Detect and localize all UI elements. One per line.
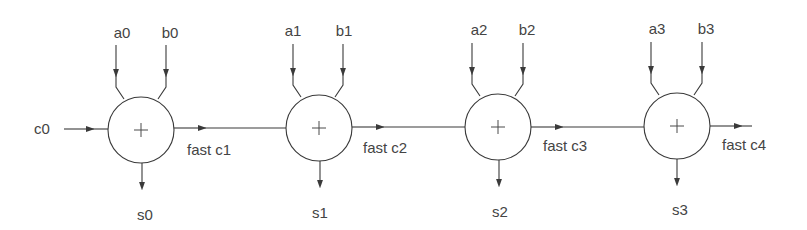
input-a-wire <box>116 70 124 99</box>
adder-node-2: a2 b2 s2 fast c3 <box>465 21 587 220</box>
input-b-label: b0 <box>162 24 179 41</box>
adder-node-3: a3 b3 s3 fast c4 <box>644 20 766 218</box>
sum-label: s0 <box>137 206 153 223</box>
input-a-label: a1 <box>285 22 302 39</box>
carry-out-label: fast c1 <box>187 141 231 158</box>
input-a-wire <box>472 68 480 96</box>
input-a-label: a3 <box>649 20 666 37</box>
input-b-label: b2 <box>519 21 536 38</box>
input-b-wire <box>515 68 523 96</box>
sum-label: s3 <box>672 201 688 218</box>
input-a-wire <box>651 67 659 95</box>
input-b-label: b3 <box>698 20 715 37</box>
carry-chain-diagram: c0 a0 b0 s0 fast c1 a1 b1 s1 fast c2 a2 <box>0 0 807 230</box>
sum-label: s1 <box>312 204 328 221</box>
input-b-wire <box>335 69 343 97</box>
input-a-label: a0 <box>114 24 131 41</box>
carry-out-label: fast c2 <box>363 139 407 156</box>
carry-out-label: fast c3 <box>543 137 587 154</box>
input-a-label: a2 <box>471 21 488 38</box>
input-b-label: b1 <box>336 22 353 39</box>
input-a-wire <box>293 69 301 97</box>
carry-in-label: c0 <box>34 120 50 137</box>
sum-label: s2 <box>492 203 508 220</box>
adder-node-0: a0 b0 s0 fast c1 <box>108 24 231 223</box>
adder-node-1: a1 b1 s1 fast c2 <box>285 22 408 221</box>
input-b-wire <box>694 67 702 95</box>
input-b-wire <box>158 70 166 99</box>
carry-out-label: fast c4 <box>722 136 766 153</box>
